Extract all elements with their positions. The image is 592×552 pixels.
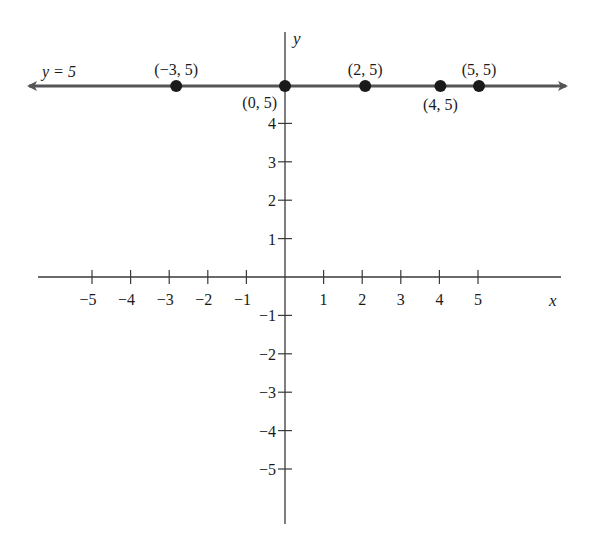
x-tick-label: 5 [474,291,482,308]
y-tick-label: 2 [268,192,276,209]
data-point [170,80,182,92]
y-tick-label: −1 [259,307,276,324]
x-tick-label: 2 [358,291,366,308]
x-tick-label: −5 [79,291,96,308]
y-tick-label: 1 [268,231,276,248]
point-label: (5, 5) [462,61,497,79]
data-point [434,80,446,92]
x-tick-label: −4 [118,291,135,308]
equation-label: y = 5 [40,63,76,81]
data-series: y = 5(−3, 5)(0, 5)(2, 5)(4, 5)(5, 5) [29,61,566,114]
coordinate-plane: xy −5−4−3−2−1123454321−1−2−3−4−5 y = 5(−… [0,0,592,552]
x-tick-label: −3 [157,291,174,308]
x-tick-label: −2 [195,291,212,308]
point-label: (−3, 5) [154,61,198,79]
data-point [279,80,291,92]
axis-ticks: −5−4−3−2−1123454321−1−2−3−4−5 [79,115,482,478]
x-axis-label: x [548,291,557,310]
x-tick-label: 4 [435,291,443,308]
point-label: (0, 5) [242,94,277,112]
point-label: (2, 5) [348,61,383,79]
axes: xy [38,29,561,524]
y-tick-label: −5 [259,461,276,478]
x-tick-label: 3 [397,291,405,308]
data-point [359,80,371,92]
y-tick-label: −2 [259,346,276,363]
y-tick-label: −4 [259,423,276,440]
y-tick-label: 3 [268,154,276,171]
y-tick-label: 4 [268,115,276,132]
x-tick-label: 1 [320,291,328,308]
point-label: (4, 5) [423,96,458,114]
x-tick-label: −1 [234,291,251,308]
data-point [473,80,485,92]
y-tick-label: −3 [259,384,276,401]
y-axis-label: y [291,29,301,48]
